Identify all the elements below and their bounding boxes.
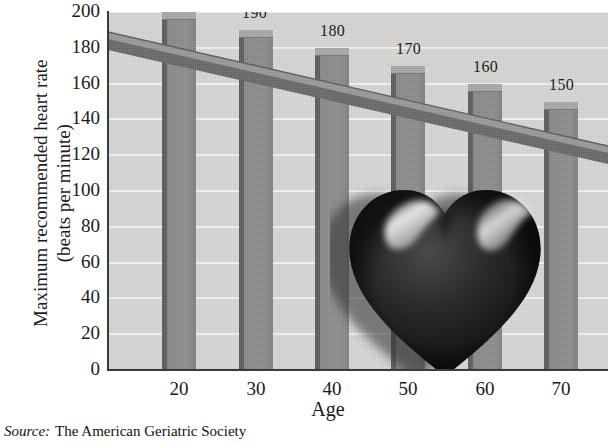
- x-axis-line: [107, 369, 608, 371]
- x-tick-label: 70: [531, 378, 591, 400]
- data-label: 190: [242, 12, 267, 22]
- bar-front-face: [162, 12, 196, 370]
- bar-front-face: [239, 30, 273, 370]
- y-axis-line: [107, 11, 109, 371]
- x-tick-label: 40: [302, 378, 362, 400]
- bar: [239, 30, 273, 370]
- source-note: Source:The American Geriatric Society: [4, 423, 246, 440]
- bar: [162, 12, 196, 370]
- x-tick-label: 60: [455, 378, 515, 400]
- bar-top-face: [391, 66, 425, 74]
- bar-top-face: [162, 12, 196, 20]
- bar-top-face: [315, 48, 349, 56]
- bar-left-edge: [315, 48, 320, 370]
- source-text: The American Geriatric Society: [55, 423, 246, 439]
- x-tick-label: 30: [226, 378, 286, 400]
- bar-top-face: [468, 84, 502, 92]
- y-axis-title: Maximum recommended heart rate (beats pe…: [29, 23, 75, 363]
- data-label: 180: [320, 22, 345, 40]
- bar-top-face: [239, 30, 273, 38]
- x-tick-label: 20: [149, 378, 209, 400]
- chart-figure: 200190180170160150 020406080100120140160…: [0, 0, 608, 445]
- x-axis-title: Age: [258, 398, 398, 421]
- x-tick-label: 50: [378, 378, 438, 400]
- heart-illustration: [330, 144, 556, 370]
- source-prefix: Source:: [4, 423, 50, 439]
- data-label: 160: [473, 58, 498, 76]
- bar-top-face: [544, 102, 578, 110]
- bar-left-edge: [239, 30, 244, 370]
- data-label: 170: [396, 40, 421, 58]
- y-axis-title-line1: Maximum recommended heart rate: [29, 23, 52, 363]
- data-label: 150: [549, 76, 574, 94]
- bar-left-edge: [162, 12, 167, 370]
- y-axis-title-line2: (beats per minute): [52, 23, 75, 363]
